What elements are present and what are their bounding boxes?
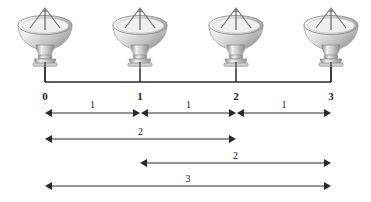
baseline-0-2-head-left [45, 135, 52, 143]
baseline-length-label-0-3: 3 [178, 173, 198, 184]
baseline-0-1-head-left [45, 109, 52, 117]
baseline-2-3-head-right [324, 109, 331, 117]
axis-tick-label-3: 3 [321, 90, 341, 102]
baseline-length-label-0-2: 2 [131, 126, 151, 137]
baseline-length-label-1-3: 2 [226, 150, 246, 161]
baseline-0-3-head-left [45, 182, 52, 190]
diagram-canvas: 0 1 2 3 1 1 1 2 2 3 [0, 0, 371, 202]
baseline-0-2-head-right [229, 135, 236, 143]
baseline-1-2-head-left [141, 109, 148, 117]
baseline-0-3-head-right [324, 182, 331, 190]
baseline-1-3-head-left [140, 159, 147, 167]
baseline-1-3-head-right [324, 159, 331, 167]
baseline-length-label-1-2: 1 [179, 99, 199, 110]
axis-tick-label-1: 1 [130, 90, 150, 102]
axis-tick-label-2: 2 [226, 90, 246, 102]
baseline-length-label-0-1: 1 [83, 99, 103, 110]
axis-tick-label-0: 0 [35, 90, 55, 102]
baseline-0-1-head-right [133, 109, 140, 117]
baseline-2-3-head-left [237, 109, 244, 117]
baseline-length-label-2-3: 1 [274, 99, 294, 110]
baseline-1-2-head-right [229, 109, 236, 117]
